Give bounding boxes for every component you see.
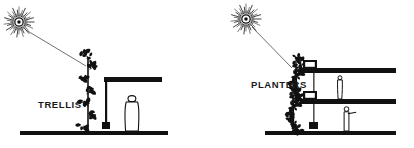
human-figure-standing: [125, 96, 139, 131]
roof-slab: [104, 77, 162, 82]
column-footing: [309, 122, 318, 129]
sun-ray-line: [252, 27, 292, 68]
panel-label-trellis: TRELLIS: [38, 99, 82, 110]
column-footing: [102, 122, 110, 129]
panel-trellis: TRELLIS: [4, 7, 168, 136]
ground-line: [265, 131, 396, 135]
support-column: [105, 82, 107, 126]
sun-ray-line: [26, 30, 86, 66]
panel-planters: PLANTERS: [231, 4, 396, 137]
sun-icon: [231, 4, 262, 35]
panel-label-planters: PLANTERS: [251, 79, 307, 90]
ground-line: [20, 131, 168, 135]
diagram-canvas: TRELLIS PLANTERS: [0, 0, 414, 148]
climbing-vine-icon: [75, 47, 98, 132]
architectural-section-drawing: TRELLIS PLANTERS: [0, 0, 414, 148]
